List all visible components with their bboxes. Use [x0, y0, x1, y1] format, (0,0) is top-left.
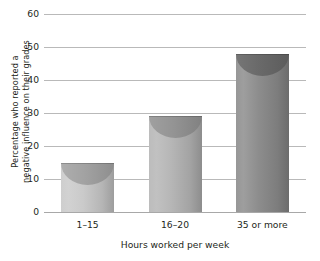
y-axis-title-line-1: Percentage who reported a [10, 40, 21, 183]
x-tick-label: 1–15 [77, 220, 99, 229]
bar[interactable] [236, 54, 289, 212]
y-tick-label: 30 [27, 108, 39, 117]
bar-top-edge [149, 116, 202, 117]
y-tick-label: 10 [27, 174, 39, 183]
bars [44, 14, 306, 212]
y-tick-label: 60 [27, 9, 39, 18]
x-tick-label: 16–20 [161, 220, 189, 229]
bar[interactable] [61, 163, 114, 213]
y-tick-label: 40 [27, 75, 39, 84]
bar[interactable] [149, 116, 202, 212]
bar-chart: Percentage who reported a negative influ… [0, 0, 320, 261]
y-tick-label: 20 [27, 141, 39, 150]
bar-top-edge [236, 54, 289, 55]
y-tick-label: 50 [27, 42, 39, 51]
plot-area: 0102030405060 [44, 14, 306, 212]
y-tick-label: 0 [33, 207, 39, 216]
bar-body [236, 54, 289, 212]
x-tick-label: 35 or more [237, 220, 288, 229]
x-axis-title: Hours worked per week [44, 240, 306, 249]
bar-top-edge [61, 163, 114, 164]
